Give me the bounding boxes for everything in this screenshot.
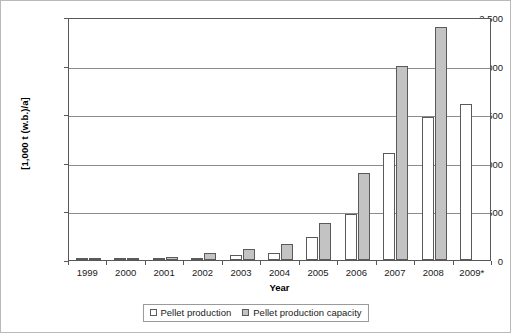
bar-pellet-production-capacity <box>89 258 101 260</box>
x-axis-tick-mark <box>414 261 415 265</box>
bar-pellet-production <box>345 214 357 260</box>
x-axis-tick-mark <box>68 261 69 265</box>
x-axis-tick-label: 2007 <box>384 267 405 278</box>
pellet-production-bar-chart: [1,000 t (w.b.)/a] 05001,0001,5002,0002,… <box>0 0 511 333</box>
bar-group <box>300 19 338 260</box>
bar-pellet-production <box>306 237 318 260</box>
x-axis-tick-label: 2006 <box>346 267 367 278</box>
bar-pellet-production-capacity <box>166 257 178 260</box>
bar-pellet-production-capacity <box>243 249 255 260</box>
bar-group <box>415 19 453 260</box>
x-axis-tick-mark <box>145 261 146 265</box>
x-axis-tick-mark <box>183 261 184 265</box>
bar-pellet-production <box>383 153 395 260</box>
x-axis-tick-mark <box>299 261 300 265</box>
bar-pellet-production <box>76 258 88 260</box>
bar-pellet-production <box>230 255 242 260</box>
bar-group <box>338 19 376 260</box>
x-axis-tick-label: 1999 <box>77 267 98 278</box>
bar-pellet-production-capacity <box>204 253 216 260</box>
bar-group <box>377 19 415 260</box>
bar-pellet-production <box>153 258 165 260</box>
bar-group <box>454 19 492 260</box>
y-axis-title-text: [1,000 t (w.b.)/a] <box>19 97 30 170</box>
bar-group <box>184 19 222 260</box>
x-axis-title: Year <box>68 282 491 293</box>
bar-pellet-production <box>114 258 126 260</box>
legend-label-capacity: Pellet production capacity <box>253 307 361 318</box>
bar-group <box>261 19 299 260</box>
bar-pellet-production-capacity <box>319 223 331 260</box>
x-axis-tick-label: 2009* <box>459 267 484 278</box>
bar-pellet-production-capacity <box>281 244 293 260</box>
bar-pellet-production-capacity <box>358 173 370 260</box>
bar-group <box>146 19 184 260</box>
x-axis-tick-mark <box>106 261 107 265</box>
y-axis-title: [1,000 t (w.b.)/a] <box>11 1 37 266</box>
legend-item-pellet-production-capacity: Pellet production capacity <box>242 307 361 318</box>
bar-pellet-production-capacity <box>435 27 447 260</box>
legend-swatch-capacity-icon <box>242 309 249 316</box>
x-axis-tick-label: 2000 <box>115 267 136 278</box>
x-axis-tick-label: 2002 <box>192 267 213 278</box>
bar-group <box>69 19 107 260</box>
x-axis-tick-mark <box>376 261 377 265</box>
bar-pellet-production <box>191 258 203 260</box>
bar-pellet-production-capacity <box>396 66 408 260</box>
x-axis-tick-mark <box>453 261 454 265</box>
x-axis-tick-mark <box>260 261 261 265</box>
bar-pellet-production <box>268 253 280 260</box>
x-axis-tick-label: 2004 <box>269 267 290 278</box>
x-axis-tick-label: 2001 <box>154 267 175 278</box>
bar-pellet-production <box>422 117 434 260</box>
chart-legend: Pellet production Pellet production capa… <box>142 304 368 322</box>
legend-label-production: Pellet production <box>160 307 231 318</box>
x-axis-tick-mark <box>491 261 492 265</box>
bar-pellet-production-capacity <box>127 258 139 260</box>
legend-item-pellet-production: Pellet production <box>149 307 231 318</box>
bar-group <box>223 19 261 260</box>
x-axis-tick-label: 2003 <box>230 267 251 278</box>
bar-group <box>107 19 145 260</box>
x-axis-tick-label: 2005 <box>307 267 328 278</box>
legend-swatch-production-icon <box>149 309 156 316</box>
bar-pellet-production <box>460 104 472 260</box>
x-axis-tick-label: 2008 <box>423 267 444 278</box>
x-axis-tick-mark <box>337 261 338 265</box>
plot-area <box>68 18 491 261</box>
x-axis-tick-mark <box>222 261 223 265</box>
